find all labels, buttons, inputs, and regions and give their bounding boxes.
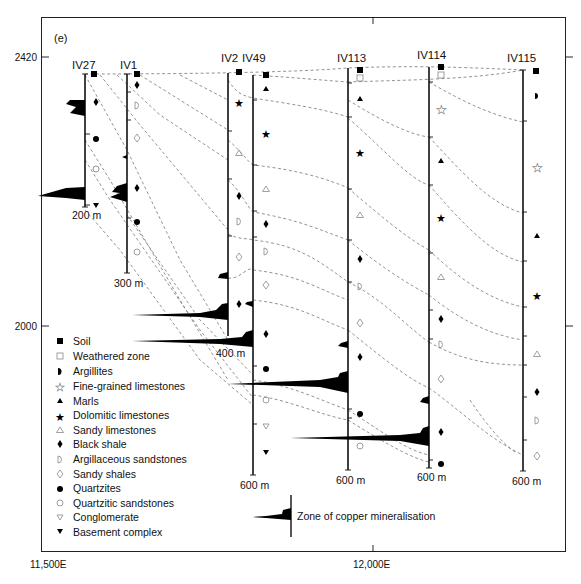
svg-text:Fine-grained limestones: Fine-grained limestones	[73, 380, 185, 392]
borehole-name: IV1	[120, 59, 137, 71]
svg-text:Marls: Marls	[73, 395, 99, 407]
legend-item-quartzites: Quartzites	[57, 482, 121, 494]
svg-text:Dolomitic limestones: Dolomitic limestones	[73, 409, 169, 421]
legend-item-dolomitic-limestones: ★Dolomitic limestones	[55, 409, 169, 423]
svg-text:Black shale: Black shale	[73, 438, 127, 450]
mineralisation-zone	[122, 155, 127, 159]
borehole-name: IV115	[507, 52, 536, 64]
legend-item-argillaceous-sandstones: Argillaceous sandstones	[58, 453, 187, 465]
legend-item-sandy-shales: Sandy shales	[57, 468, 136, 480]
svg-text:★: ★	[532, 290, 542, 302]
mineralisation-zone	[66, 100, 85, 116]
svg-text:★: ★	[355, 147, 365, 159]
open-inverted-triangle-icon	[57, 515, 63, 520]
mineralisation-zone	[228, 371, 348, 393]
borehole-iv115: IV115 600 m ★ ★	[507, 52, 543, 487]
mineralisation-label: Zone of copper mineralisation	[297, 510, 435, 522]
svg-text:Conglomerate: Conglomerate	[73, 511, 139, 523]
correlation-lines	[85, 67, 523, 462]
svg-text:★: ★	[436, 103, 447, 117]
borehole-name: IV27	[72, 59, 96, 71]
filled-inverted-triangle-icon	[57, 529, 63, 534]
legend-item-fine-grained-limestones: ★Fine-grained limestones	[55, 380, 185, 393]
svg-text:★: ★	[234, 97, 244, 109]
svg-text:Argillaceous sandstones: Argillaceous sandstones	[73, 453, 187, 465]
legend-item-weathered-zone: Weathered zone	[57, 350, 150, 362]
svg-text:Sandy shales: Sandy shales	[73, 468, 136, 480]
borehole-iv27: IV27 200 m	[38, 59, 101, 221]
y-label-2000: 2000	[15, 321, 38, 332]
mineralisation-zone	[38, 187, 85, 200]
mineralisation-zone	[338, 341, 348, 348]
open-d-icon	[58, 456, 62, 463]
depth-label: 600 m	[417, 471, 446, 483]
open-triangle-icon	[57, 427, 64, 433]
borehole-iv2: IV2 400 m ★	[132, 52, 245, 359]
legend-item-conglomerate: Conglomerate	[57, 511, 139, 523]
y-label-2420: 2420	[15, 52, 38, 63]
svg-text:Soil: Soil	[73, 335, 91, 347]
svg-text:Quartzitic sandstones: Quartzitic sandstones	[73, 497, 174, 509]
filled-circle-icon	[57, 486, 63, 492]
x-label-12000e: 12,000E	[353, 559, 391, 570]
borehole-name: IV113	[337, 52, 366, 64]
mineralisation-zone	[132, 330, 253, 347]
svg-text:Quartzites: Quartzites	[73, 482, 121, 494]
legend-item-argillites: Argillites	[58, 365, 113, 377]
depth-label: 600 m	[336, 474, 365, 486]
depth-label: 200 m	[72, 209, 101, 221]
weathered-zone-symbol-icon	[57, 353, 63, 359]
legend-item-black-shale: Black shale	[58, 438, 127, 450]
mineralisation-zone	[218, 272, 228, 279]
mineralisation-zone	[245, 301, 253, 307]
mineralisation-zone-icon	[252, 508, 291, 520]
borehole-name: IV49	[242, 52, 266, 64]
filled-diamond-icon	[58, 440, 63, 448]
filled-star-icon: ★	[55, 411, 65, 423]
mineralisation-zone	[110, 183, 127, 202]
mineralisation-zone	[420, 396, 429, 404]
borehole-iv114: IV114 600 m ★ ★	[290, 49, 447, 483]
mineralisation-zone	[132, 303, 228, 320]
svg-text:Basement complex: Basement complex	[73, 526, 163, 538]
panel-label: (e)	[54, 32, 67, 44]
svg-text:★: ★	[532, 161, 543, 175]
argillites-symbol-icon	[58, 368, 62, 375]
depth-label: 600 m	[240, 479, 269, 491]
soil-symbol-icon	[57, 338, 63, 344]
legend-item-soil: Soil	[57, 335, 91, 347]
open-star-icon: ★	[55, 381, 65, 393]
legend-item-sandy-limestones: Sandy limestones	[57, 424, 156, 436]
svg-text:Argillites: Argillites	[73, 365, 113, 377]
cross-section-diagram: (e) 2420 2000 11,500E 12,000E	[0, 0, 581, 584]
svg-text:★: ★	[261, 128, 271, 140]
depth-label: 300 m	[114, 277, 143, 289]
depth-label: 400 m	[216, 347, 245, 359]
open-circle-icon	[57, 500, 63, 506]
svg-text:★: ★	[436, 212, 446, 224]
depth-label: 600 m	[512, 475, 541, 487]
legend-item-quartzitic-sandstones: Quartzitic sandstones	[57, 497, 174, 509]
open-diamond-icon	[57, 470, 63, 478]
svg-text:Sandy limestones: Sandy limestones	[73, 424, 156, 436]
filled-triangle-icon	[57, 398, 63, 403]
borehole-name: IV2	[221, 52, 238, 64]
legend-item-marls: Marls	[57, 395, 99, 407]
legend-item-mineralisation: Zone of copper mineralisation	[252, 495, 435, 537]
legend-item-basement-complex: Basement complex	[57, 526, 163, 538]
svg-text:Weathered zone: Weathered zone	[73, 350, 150, 362]
x-label-11500e: 11,500E	[30, 559, 67, 570]
borehole-name: IV114	[417, 49, 447, 61]
